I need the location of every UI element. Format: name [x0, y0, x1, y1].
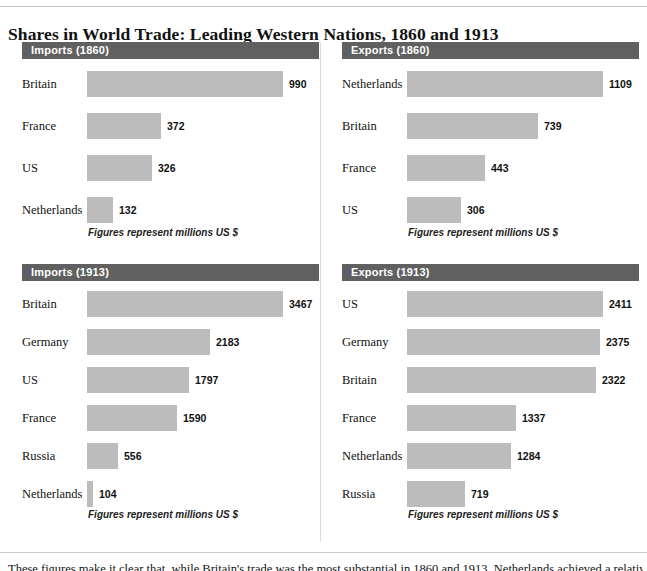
bar-area: 556 — [87, 443, 319, 469]
bar-area: 2183 — [87, 329, 319, 355]
bar-category-label: Netherlands — [22, 488, 87, 501]
bar-area: 2375 — [407, 329, 639, 355]
bar — [407, 113, 538, 139]
bar-area: 306 — [407, 197, 639, 223]
bar-category-label: France — [342, 162, 407, 175]
bottom-rule — [0, 552, 647, 553]
bar-value-label: 990 — [289, 79, 307, 90]
bar-category-label: Netherlands — [342, 78, 407, 91]
bar-row: Netherlands1284 — [342, 437, 639, 475]
bar — [407, 197, 461, 223]
bar-area: 104 — [87, 481, 319, 507]
bar-value-label: 2375 — [606, 337, 629, 348]
bar-value-label: 2411 — [609, 299, 632, 310]
bar-row: US2411 — [342, 285, 639, 323]
bar-value-label: 1590 — [183, 413, 206, 424]
bar-area: 326 — [87, 155, 319, 181]
bar-row: Britain3467 — [22, 285, 319, 323]
bar-category-label: Germany — [22, 336, 87, 349]
panel-header-label: Imports (1913) — [31, 267, 109, 278]
bar-row: Germany2375 — [342, 323, 639, 361]
bar-rows: Netherlands1109Britain739France443US306 — [342, 63, 639, 231]
panel-imports-1860: Imports (1860) Britain990France372US326N… — [22, 42, 319, 238]
bar-value-label: 556 — [124, 451, 142, 462]
bar-value-label: 1797 — [195, 375, 218, 386]
bar — [87, 71, 283, 97]
bar-category-label: Germany — [342, 336, 407, 349]
bar-category-label: US — [22, 162, 87, 175]
bar-value-label: 3467 — [289, 299, 312, 310]
panel-header: Imports (1860) — [22, 42, 319, 59]
bar — [407, 405, 516, 431]
bar-value-label: 2183 — [216, 337, 239, 348]
bar-value-label: 719 — [471, 489, 489, 500]
panel-exports-1860: Exports (1860) Netherlands1109Britain739… — [342, 42, 639, 238]
panel-header-label: Exports (1913) — [351, 267, 430, 278]
bar-category-label: France — [342, 412, 407, 425]
panel-grid: Imports (1860) Britain990France372US326N… — [0, 42, 647, 552]
bar-value-label: 739 — [544, 121, 562, 132]
bar-area: 2322 — [407, 367, 639, 393]
bar-value-label: 1284 — [517, 451, 540, 462]
bar-area: 1590 — [87, 405, 319, 431]
bar-area: 2411 — [407, 291, 639, 317]
bar-row: France443 — [342, 147, 639, 189]
bar-value-label: 372 — [167, 121, 185, 132]
bar-area: 132 — [87, 197, 319, 223]
bar-category-label: Britain — [342, 120, 407, 133]
bar-value-label: 1337 — [522, 413, 545, 424]
panel-header: Exports (1913) — [342, 264, 639, 281]
bar-row: Russia719 — [342, 475, 639, 513]
bar-row: Britain739 — [342, 105, 639, 147]
bar-value-label: 132 — [119, 205, 137, 216]
bar — [407, 155, 485, 181]
bar-rows: Britain3467Germany2183US1797France1590Ru… — [22, 285, 319, 513]
bar-row: Netherlands1109 — [342, 63, 639, 105]
bar-area: 1337 — [407, 405, 639, 431]
bar-category-label: US — [342, 204, 407, 217]
footer-body-text: These figures make it clear that, while … — [8, 562, 643, 571]
bar-area: 739 — [407, 113, 639, 139]
bar-rows: US2411Germany2375Britain2322France1337Ne… — [342, 285, 639, 513]
bar — [87, 291, 283, 317]
bar-category-label: Russia — [22, 450, 87, 463]
bar — [407, 71, 603, 97]
bar-category-label: Netherlands — [342, 450, 407, 463]
bar-row: US1797 — [22, 361, 319, 399]
panel-header-label: Exports (1860) — [351, 45, 430, 56]
bar — [407, 367, 596, 393]
bar-row: Netherlands132 — [22, 189, 319, 231]
bar-category-label: Britain — [22, 78, 87, 91]
bar-category-label: France — [22, 120, 87, 133]
panel-header: Imports (1913) — [22, 264, 319, 281]
bar-row: Germany2183 — [22, 323, 319, 361]
panel-imports-1913: Imports (1913) Britain3467Germany2183US1… — [22, 264, 319, 520]
bar — [87, 443, 118, 469]
bar-category-label: US — [22, 374, 87, 387]
bar-category-label: Britain — [342, 374, 407, 387]
bar — [87, 113, 161, 139]
bar-area: 719 — [407, 481, 639, 507]
bar-row: Netherlands104 — [22, 475, 319, 513]
bar-category-label: Russia — [342, 488, 407, 501]
bar — [407, 329, 600, 355]
bar — [407, 481, 465, 507]
bar — [87, 367, 189, 393]
bar — [87, 481, 93, 507]
bar-row: Russia556 — [22, 437, 319, 475]
bar-area: 1797 — [87, 367, 319, 393]
bar-rows: Britain990France372US326Netherlands132 — [22, 63, 319, 231]
bar-row: US326 — [22, 147, 319, 189]
bar-area: 990 — [87, 71, 319, 97]
bar — [407, 443, 511, 469]
bar-area: 3467 — [87, 291, 319, 317]
bar — [87, 329, 210, 355]
bar-value-label: 326 — [158, 163, 176, 174]
bar-row: France372 — [22, 105, 319, 147]
bar-row: Britain2322 — [342, 361, 639, 399]
top-rule — [0, 6, 647, 7]
bar — [407, 291, 603, 317]
bar-value-label: 306 — [467, 205, 485, 216]
bar-area: 443 — [407, 155, 639, 181]
bar-category-label: Britain — [22, 298, 87, 311]
